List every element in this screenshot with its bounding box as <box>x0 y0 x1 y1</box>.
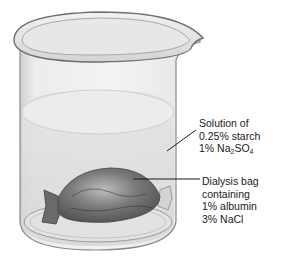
formula-prefix: 1% Na <box>199 142 231 154</box>
formula-subscript-4: 4 <box>250 148 254 155</box>
solution-label-line1: Solution of <box>199 117 260 130</box>
solution-label-line3: 1% Na2SO4 <box>199 142 260 155</box>
solution-label-line2: 0.25% starch <box>199 130 260 143</box>
formula-mid: SO <box>234 142 249 154</box>
solution-label: Solution of 0.25% starch 1% Na2SO4 <box>199 117 260 155</box>
bag-label-line2: containing <box>202 188 259 201</box>
bag-label-line1: Dialysis bag <box>202 175 259 188</box>
dialysis-bag-label: Dialysis bag containing 1% albumin 3% Na… <box>202 175 259 225</box>
bag-label-line3: 1% albumin <box>202 200 259 213</box>
bag-label-line4: 3% NaCl <box>202 213 259 226</box>
